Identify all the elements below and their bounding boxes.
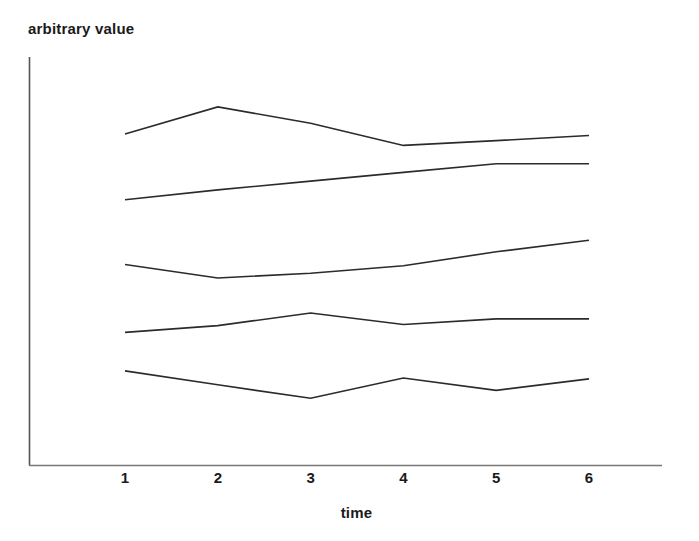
x-axis-label-text: time (341, 504, 373, 521)
x-tick-label-1: 1 (105, 469, 145, 486)
data-line-4 (125, 313, 589, 332)
x-tick-label-6: 6 (569, 469, 609, 486)
chart-figure: arbitrary value 123456 time (0, 0, 699, 541)
x-tick-label-2: 2 (198, 469, 238, 486)
x-axis-label: time (0, 504, 699, 521)
data-line-5 (125, 371, 589, 398)
chart-axes (29, 57, 662, 466)
chart-series-group (125, 107, 589, 398)
line-chart-plot (0, 0, 699, 541)
data-line-2 (125, 164, 589, 200)
x-tick-label-5: 5 (476, 469, 516, 486)
x-tick-label-3: 3 (291, 469, 331, 486)
x-tick-label-4: 4 (383, 469, 423, 486)
data-line-1 (125, 107, 589, 146)
data-line-3 (125, 240, 589, 278)
